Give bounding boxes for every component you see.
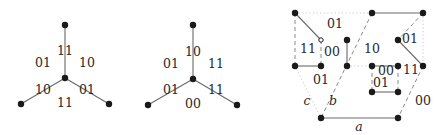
node: [344, 63, 350, 69]
node: [395, 115, 401, 121]
node: [395, 63, 401, 69]
node-left: [145, 102, 151, 108]
region-label: 11: [300, 41, 316, 56]
edge-label-top: 10: [185, 44, 201, 59]
node: [369, 89, 375, 95]
node-top: [62, 22, 68, 28]
diagram-canvas: 11 01 10 10 01 11 10 01 11 01 11 00: [0, 0, 445, 135]
axis-label-b: b: [329, 93, 337, 108]
region-label: 01: [327, 16, 343, 31]
region-label: 11: [403, 62, 419, 77]
face-label-upper-left: 01: [163, 56, 179, 71]
node-left: [18, 101, 24, 107]
node: [395, 89, 401, 95]
solid-edge: [295, 13, 321, 40]
node: [420, 10, 426, 16]
edge-label-right: 01: [79, 82, 95, 97]
node: [344, 37, 350, 43]
axis-label-a: a: [355, 119, 362, 134]
face-label-bottom: 00: [185, 96, 201, 111]
node: [318, 115, 324, 121]
cube-decomposition: 01 11 00 01 10 01 00 11 01 00 a b c: [292, 10, 431, 134]
region-label: 00: [415, 93, 431, 108]
face-label-bottom: 11: [57, 95, 73, 110]
star-graph-2: 10 01 11 01 11 00: [145, 22, 240, 111]
face-label-upper-right: 11: [208, 56, 224, 71]
axis-label-c: c: [303, 93, 310, 108]
node-center: [190, 76, 196, 82]
star-graph-1: 11 01 10 10 01 11: [18, 22, 112, 110]
node: [369, 63, 375, 69]
edge-label-top: 11: [57, 43, 73, 58]
node: [292, 63, 298, 69]
region-label: 10: [364, 41, 380, 56]
edge-label-left: 10: [35, 82, 51, 97]
node: [318, 63, 324, 69]
edge-label-right: 11: [208, 82, 224, 97]
node: [395, 37, 401, 43]
region-label: 00: [324, 44, 340, 59]
node-right: [234, 102, 240, 108]
region-label: 01: [402, 31, 418, 46]
region-label: 01: [313, 72, 329, 87]
node-right: [106, 101, 112, 107]
face-label-upper-right: 10: [79, 55, 95, 70]
node: [420, 63, 426, 69]
node: [292, 10, 298, 16]
node-hollow: [319, 38, 323, 42]
edge-label-left: 01: [163, 82, 179, 97]
node-center: [62, 75, 68, 81]
node-top: [190, 22, 196, 28]
region-label: 01: [373, 75, 389, 90]
face-label-upper-left: 01: [35, 55, 51, 70]
node: [369, 10, 375, 16]
